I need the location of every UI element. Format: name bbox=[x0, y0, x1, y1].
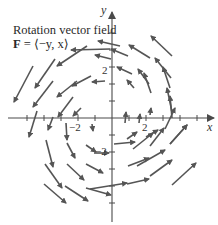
title-formula: F = ⟨−y, x⟩ bbox=[13, 37, 116, 51]
field-arrow bbox=[172, 163, 196, 185]
field-arrows bbox=[14, 36, 196, 203]
diagram-title: Rotation vector field F = ⟨−y, x⟩ bbox=[13, 23, 116, 51]
field-arrow bbox=[167, 88, 172, 112]
vector-field-diagram: Rotation vector field F = ⟨−y, x⟩ x y −2… bbox=[0, 0, 218, 225]
field-arrow bbox=[150, 108, 151, 115]
field-arrow bbox=[65, 186, 88, 201]
field-arrow bbox=[29, 111, 37, 137]
field-arrow bbox=[127, 132, 137, 139]
field-arrow bbox=[127, 179, 149, 184]
field-arrow bbox=[67, 143, 75, 158]
formula-vector-symbol: F bbox=[13, 37, 21, 51]
field-arrow bbox=[66, 123, 67, 140]
field-arrow bbox=[92, 124, 93, 131]
field-arrow bbox=[146, 130, 158, 137]
y-tick-label-2: 2 bbox=[102, 64, 108, 76]
field-arrow bbox=[73, 108, 81, 116]
field-arrow bbox=[45, 164, 62, 188]
field-arrow bbox=[137, 150, 165, 166]
field-arrow bbox=[155, 58, 171, 78]
x-axis-label: x bbox=[207, 120, 212, 135]
y-axis-label: y bbox=[101, 3, 106, 18]
field-arrow bbox=[57, 81, 77, 97]
field-arrow bbox=[125, 112, 126, 123]
title-line-1: Rotation vector field bbox=[13, 23, 116, 37]
field-arrow bbox=[72, 76, 91, 86]
field-arrow bbox=[114, 142, 135, 144]
y-tick-label-neg2: −2 bbox=[95, 145, 107, 157]
formula-rest: = ⟨−y, x⟩ bbox=[21, 37, 69, 51]
field-arrow bbox=[58, 97, 73, 117]
field-arrow bbox=[138, 69, 149, 84]
field-arrow bbox=[170, 125, 187, 144]
field-arrow bbox=[117, 67, 132, 74]
field-arrow bbox=[127, 80, 134, 88]
field-arrow bbox=[48, 117, 53, 130]
field-arrow bbox=[129, 45, 150, 58]
field-arrow bbox=[95, 55, 111, 59]
x-tick-label-2: 2 bbox=[142, 121, 148, 133]
field-arrow bbox=[90, 183, 127, 189]
field-arrow bbox=[14, 66, 33, 102]
field-arrow bbox=[86, 188, 111, 195]
field-arrow bbox=[46, 140, 53, 167]
field-arrow bbox=[33, 81, 53, 107]
field-arrow bbox=[35, 59, 55, 88]
field-arrow bbox=[150, 160, 172, 176]
field-arrow bbox=[151, 36, 172, 56]
field-arrow bbox=[139, 114, 140, 123]
field-arrow bbox=[92, 81, 105, 82]
x-tick-label-neg2: −2 bbox=[69, 121, 81, 133]
field-arrow bbox=[86, 164, 103, 173]
field-arrow bbox=[44, 184, 66, 203]
field-arrow bbox=[67, 164, 84, 180]
